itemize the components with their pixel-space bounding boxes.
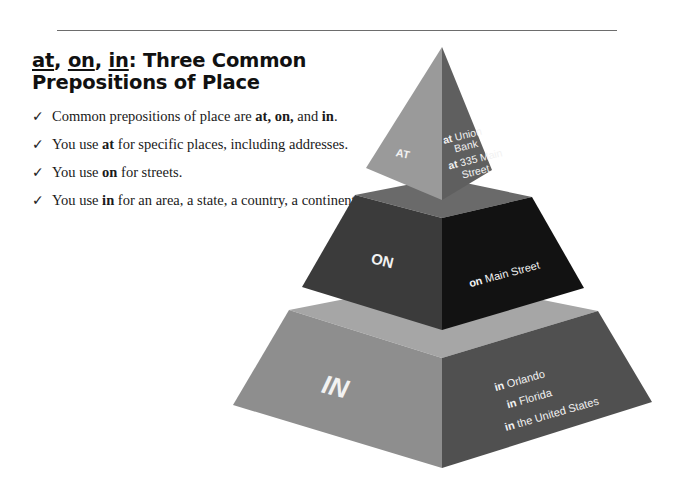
tier-at-left-face [366, 47, 442, 200]
prepositions-pyramid: IN in Orlando in Florida in the United S… [0, 0, 679, 479]
tier-at: AT at Union Bank at 335 Main Street [366, 47, 507, 200]
